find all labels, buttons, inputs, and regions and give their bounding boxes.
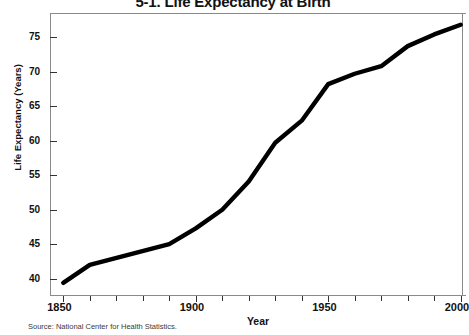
y-axis-tick-mark <box>50 141 57 142</box>
y-axis-tick-label: 40 <box>12 274 40 284</box>
x-axis-tick-label: 2000 <box>445 301 469 313</box>
y-axis-tick-mark <box>50 106 57 107</box>
x-axis-minor-tick-mark <box>143 296 144 301</box>
x-axis-minor-tick-mark <box>116 296 117 301</box>
x-axis-tick-label: 1900 <box>180 301 204 313</box>
line-chart-plot <box>50 13 466 296</box>
x-axis-minor-tick-mark <box>302 296 303 301</box>
x-axis-minor-tick-mark <box>169 296 170 301</box>
x-axis-minor-tick-mark <box>275 296 276 301</box>
y-axis-tick-mark <box>50 279 57 280</box>
y-axis-label: Life Expectancy (Years) <box>12 28 23 208</box>
x-axis-minor-tick-mark <box>355 296 356 301</box>
x-axis-minor-tick-mark <box>408 296 409 301</box>
x-axis-minor-tick-mark <box>222 296 223 301</box>
y-axis-tick-mark <box>50 175 57 176</box>
chart-title: 5-1. Life Expectancy at Birth <box>0 0 466 12</box>
x-axis-tick-label: 1850 <box>47 301 71 313</box>
y-axis-tick-mark <box>50 72 57 73</box>
x-axis-minor-tick-mark <box>249 296 250 301</box>
x-axis-minor-tick-mark <box>381 296 382 301</box>
y-axis-tick-mark <box>50 210 57 211</box>
x-axis-minor-tick-mark <box>434 296 435 301</box>
y-axis-tick-mark <box>50 37 57 38</box>
y-axis-tick-mark <box>50 244 57 245</box>
x-axis-tick-label: 1950 <box>312 301 336 313</box>
x-axis-minor-tick-mark <box>90 296 91 301</box>
source-note: Source: National Center for Health Stati… <box>28 322 177 331</box>
y-axis-tick-label: 45 <box>12 239 40 249</box>
data-series-line-life-expectancy <box>63 25 460 283</box>
